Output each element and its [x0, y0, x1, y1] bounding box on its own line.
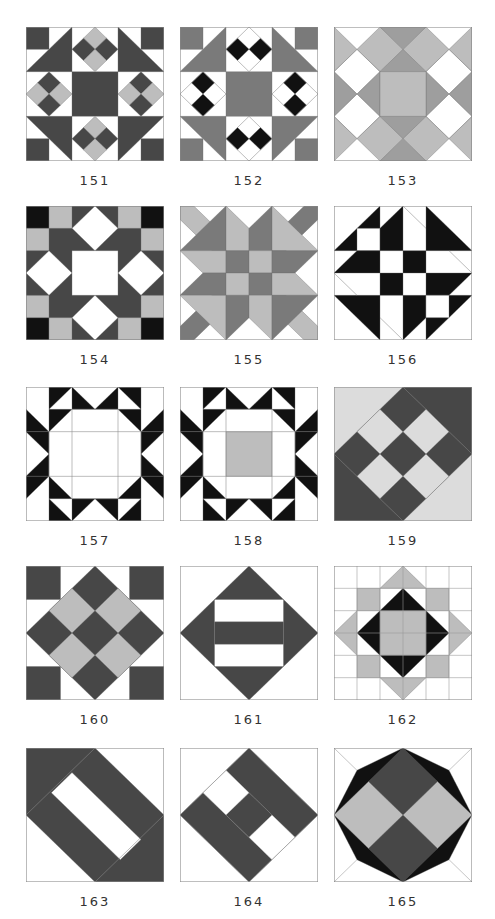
block-158 — [180, 387, 318, 521]
block-153 — [334, 27, 472, 161]
quilt-pattern — [334, 27, 472, 161]
quilt-pattern — [26, 566, 164, 700]
quilt-pattern — [334, 566, 472, 700]
quilt-pattern — [180, 387, 318, 521]
quilt-pattern — [180, 206, 318, 340]
block-number-label: 155 — [180, 352, 318, 367]
quilt-pattern — [180, 748, 318, 882]
block-number-label: 161 — [180, 712, 318, 727]
block-156 — [334, 206, 472, 340]
block-number-label: 157 — [26, 533, 164, 548]
block-number-label: 159 — [334, 533, 472, 548]
quilt-pattern — [334, 748, 472, 882]
block-number-label: 153 — [334, 173, 472, 188]
block-number-label: 165 — [334, 894, 472, 909]
block-number-label: 151 — [26, 173, 164, 188]
block-157 — [26, 387, 164, 521]
block-number-label: 156 — [334, 352, 472, 367]
quilt-pattern — [26, 27, 164, 161]
quilt-pattern — [180, 27, 318, 161]
quilt-pattern — [334, 387, 472, 521]
block-159 — [334, 387, 472, 521]
quilt-pattern — [26, 206, 164, 340]
block-161 — [180, 566, 318, 700]
block-160 — [26, 566, 164, 700]
block-number-label: 152 — [180, 173, 318, 188]
block-number-label: 162 — [334, 712, 472, 727]
quilt-pattern — [180, 566, 318, 700]
block-154 — [26, 206, 164, 340]
block-number-label: 164 — [180, 894, 318, 909]
block-number-label: 158 — [180, 533, 318, 548]
block-162 — [334, 566, 472, 700]
quilt-pattern — [26, 748, 164, 882]
quilt-pattern — [334, 206, 472, 340]
quilt-pattern — [26, 387, 164, 521]
block-155 — [180, 206, 318, 340]
block-164 — [180, 748, 318, 882]
block-number-label: 154 — [26, 352, 164, 367]
block-163 — [26, 748, 164, 882]
block-number-label: 160 — [26, 712, 164, 727]
block-165 — [334, 748, 472, 882]
block-number-label: 163 — [26, 894, 164, 909]
block-152 — [180, 27, 318, 161]
block-151 — [26, 27, 164, 161]
